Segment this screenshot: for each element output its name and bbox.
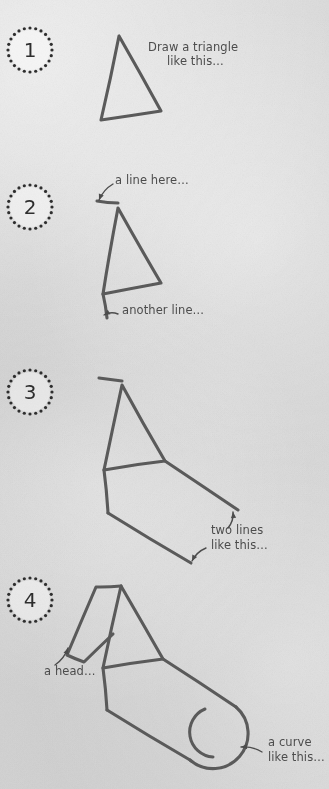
step-4-body-lower [107, 710, 190, 760]
step-3-triangle [104, 385, 165, 470]
step-3-lower-line [108, 513, 191, 563]
step-3-caption-line-2: like this… [211, 538, 268, 552]
step-3-left-line [104, 470, 108, 513]
step-4-caption-a-curve: a curve [268, 735, 312, 749]
step-4-end-cap [190, 707, 248, 769]
step-1-caption-line-1: Draw a triangle [148, 40, 238, 54]
step-1-badge-number: 1 [8, 28, 52, 72]
step-4-triangle [103, 586, 163, 668]
step-2-caption-a-line-here: a line here… [115, 173, 189, 187]
step-3-upper-line [165, 461, 238, 510]
step-3-badge-number: 3 [8, 370, 52, 414]
step-4-leader-arrow-1-head [64, 648, 69, 654]
step-4-badge-number: 4 [8, 578, 52, 622]
step-2-triangle [103, 208, 161, 294]
step-3-top-line [99, 378, 122, 381]
tutorial-page: 1 Draw a triangle like this… 2 a line he… [0, 0, 329, 789]
step-4-body-upper [163, 659, 236, 707]
step-2-caption-another-line: another line… [122, 303, 204, 317]
step-4-caption-like-this: like this… [268, 750, 325, 764]
step-1-caption-line-2: like this… [167, 54, 224, 68]
step-2-badge-number: 2 [8, 185, 52, 229]
step-4-caption-a-head: a head… [44, 664, 96, 678]
step-3-caption-line-1: two lines [211, 523, 263, 537]
step-4-left-line [103, 668, 107, 710]
step-4-inner-curve [190, 709, 213, 757]
step-2-top-line [97, 201, 118, 203]
